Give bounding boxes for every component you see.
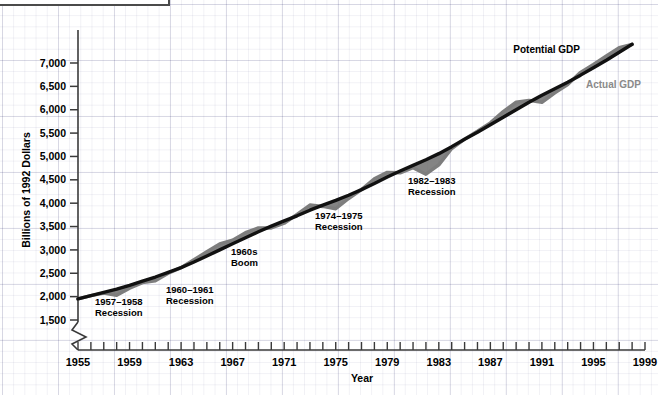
annotation-line-2: Recession — [166, 295, 214, 306]
y-axis-tick-label: 1,500 — [40, 314, 66, 326]
x-axis-tick-label: 1971 — [272, 356, 296, 368]
x-axis-tick-label: 1955 — [66, 356, 90, 368]
x-axis-title: Year — [351, 372, 373, 384]
y-axis-tick-label: 5,000 — [40, 150, 66, 162]
x-axis-tick-label: 1963 — [169, 356, 193, 368]
x-axis-tick-label: 1983 — [427, 356, 451, 368]
y-axis-tick-label: 2,500 — [40, 267, 66, 279]
annotation-line-1: 1974–1975 — [315, 210, 363, 221]
x-axis-tick-label: 1975 — [323, 356, 347, 368]
y-axis-break-symbol — [72, 322, 86, 350]
y-axis-title: Billions of 1992 Dollars — [20, 132, 32, 248]
annotation-recession-1974-1975: 1974–1975 Recession — [315, 210, 363, 232]
gdp-chart: 1,5002,0002,5003,0003,5004,0004,5005,000… — [0, 0, 658, 395]
y-axis-tick-label: 7,000 — [40, 57, 66, 69]
y-axis-tick-label: 3,500 — [40, 220, 66, 232]
y-axis-tick-label: 3,000 — [40, 244, 66, 256]
annotation-line-1: 1957–1958 — [95, 296, 143, 307]
y-axis-tick-label: 4,500 — [40, 173, 66, 185]
annotation-line-2: Boom — [231, 257, 258, 268]
annotation-boom-1960s: 1960s Boom — [231, 246, 258, 268]
y-axis-tick-label: 2,000 — [40, 290, 66, 302]
annotation-line-2: Recession — [315, 221, 363, 232]
gdp-gap-area — [78, 44, 632, 299]
potential-gdp-line — [78, 44, 632, 299]
y-axis-tick-label: 6,500 — [40, 80, 66, 92]
annotation-recession-1960-1961: 1960–1961 Recession — [166, 284, 214, 306]
legend-label-actual-gdp: Actual GDP — [586, 79, 641, 90]
annotation-line-1: 1960s — [231, 246, 257, 257]
annotation-line-2: Recession — [95, 307, 143, 318]
x-axis-tick-label: 1979 — [375, 356, 399, 368]
legend-label-potential-gdp: Potential GDP — [513, 44, 580, 55]
annotation-line-2: Recession — [408, 186, 456, 197]
x-axis-tick-label: 1987 — [478, 356, 502, 368]
annotation-recession-1982-1983: 1982–1983 Recession — [408, 175, 456, 197]
y-axis-ticks: 1,5002,0002,5003,0003,5004,0004,5005,000… — [40, 57, 78, 326]
y-axis-tick-label: 4,000 — [40, 197, 66, 209]
x-axis-tick-label: 1991 — [530, 356, 554, 368]
y-axis-tick-label: 5,500 — [40, 127, 66, 139]
x-axis-tick-label: 1959 — [117, 356, 141, 368]
annotation-recession-1957-1958: 1957–1958 Recession — [95, 296, 143, 318]
x-axis-tick-label: 1995 — [581, 356, 605, 368]
x-axis-tick-label: 1967 — [220, 356, 244, 368]
x-axis-tick-label: 1999 — [633, 356, 657, 368]
annotation-line-1: 1982–1983 — [408, 175, 456, 186]
x-axis-ticks: 1955195919631967197119751979198319871991… — [66, 342, 657, 368]
actual-gdp-line — [78, 44, 632, 299]
annotation-line-1: 1960–1961 — [166, 284, 214, 295]
y-axis-tick-label: 6,000 — [40, 103, 66, 115]
